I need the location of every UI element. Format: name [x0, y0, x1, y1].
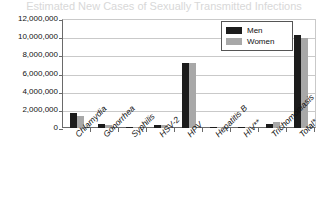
y-axis-tick-label: 10,000,000 [18, 33, 58, 41]
y-axis-tick-label: 2,000,000 [22, 106, 58, 114]
bar-women [301, 38, 308, 128]
bar-group [182, 19, 196, 128]
y-axis-tick-label: 0 [54, 124, 58, 132]
legend-swatch [226, 27, 242, 34]
bar-chart: 02,000,0004,000,0006,000,0008,000,00010,… [0, 0, 328, 208]
y-axis-tick-label: 4,000,000 [22, 88, 58, 96]
x-axis-labels: ChlamydiaGonorrheaSyphilisHSV-2HPVHepati… [0, 132, 328, 202]
y-axis-tick-label: 6,000,000 [22, 70, 58, 78]
chart-legend: MenWomen [221, 21, 293, 51]
bar-women [189, 63, 196, 128]
legend-swatch [226, 38, 242, 45]
legend-item: Women [226, 36, 288, 47]
bar-group [70, 19, 84, 128]
bar-group [154, 19, 168, 128]
y-axis-tick-label: 8,000,000 [22, 51, 58, 59]
bar-men [182, 63, 189, 128]
legend-label: Men [247, 25, 263, 36]
bar-men [70, 113, 77, 128]
y-axis-tick-label: 12,000,000 [18, 15, 58, 23]
y-axis-labels: 02,000,0004,000,0006,000,0008,000,00010,… [0, 19, 58, 128]
legend-item: Men [226, 25, 288, 36]
legend-label: Women [247, 36, 274, 47]
